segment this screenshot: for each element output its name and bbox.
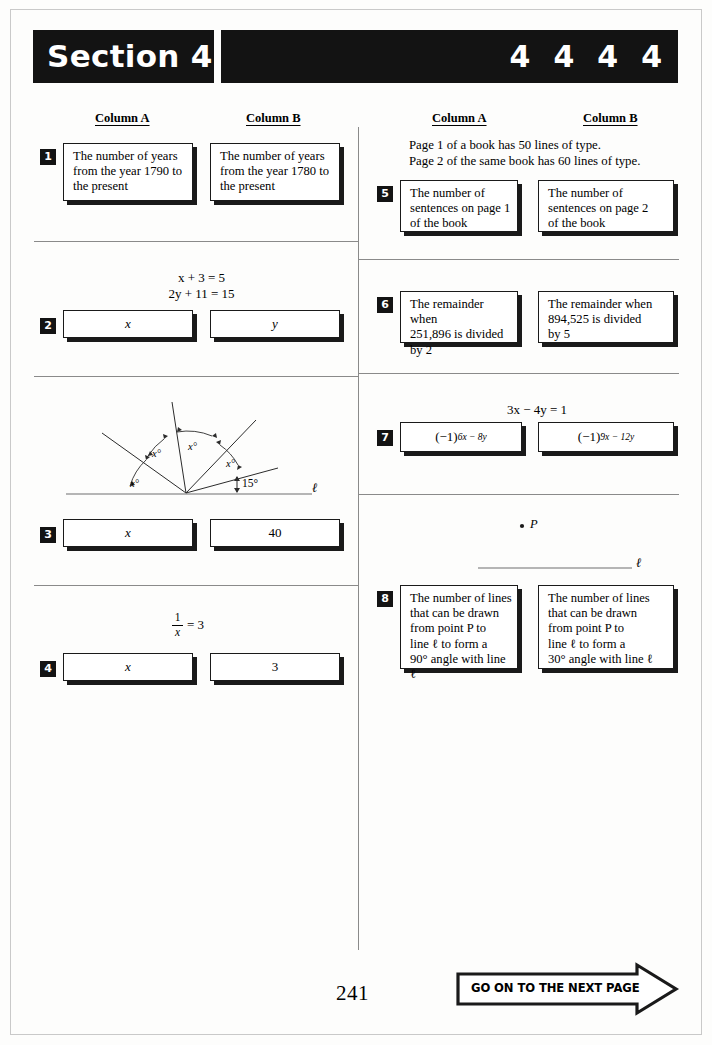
next-page-label: GO ON TO THE NEXT PAGE (471, 981, 640, 995)
arrowhead-15-bottom (234, 488, 240, 493)
q7-column-a-base: (−1) (435, 429, 458, 445)
ray-shallow-right (186, 468, 278, 493)
question-number-6: 6 (377, 297, 393, 313)
question-number-5: 5 (377, 186, 393, 202)
q2-stem: x + 3 = 5 2y + 11 = 15 (63, 270, 340, 302)
q8-line-label: ℓ (636, 555, 641, 571)
left-column-a-header: Column A (95, 111, 150, 126)
ray-upper-left (102, 433, 186, 493)
question-number-2: 2 (40, 318, 56, 334)
q1-column-a-box: The number of years from the year 1790 t… (63, 143, 193, 201)
q3-column-b-box: 40 (210, 519, 340, 547)
fraction-rest: = 3 (187, 617, 204, 633)
point-P-dot (520, 524, 524, 528)
q6-column-a-box: The remainder when 251,896 is divided by… (400, 291, 518, 343)
q7-column-b-base: (−1) (578, 429, 601, 445)
angle-diagram-svg (60, 398, 340, 506)
q4-column-a-box: x (63, 653, 193, 681)
q1-column-b-text: The number of years from the year 1780 t… (220, 149, 334, 195)
section-title: Section 4 (47, 34, 213, 79)
q3-column-a-box: x (63, 519, 193, 547)
q5-column-b-text: The number of sentences on page 2 of the… (548, 186, 668, 232)
section-number-2: 4 (553, 39, 574, 74)
section-number-1: 4 (510, 39, 531, 74)
q3-column-a-text: x (64, 520, 192, 546)
q3-angle-figure: x° x° x° x° 15° ℓ (60, 398, 340, 506)
page-number: 241 (336, 981, 369, 1006)
q2-column-a-box: x (63, 310, 193, 338)
section-banner: Section 4 (33, 30, 214, 83)
q7-column-a-expression: (−1)6x − 8y (401, 423, 521, 451)
q4-column-b-box: 3 (210, 653, 340, 681)
q8-column-b-box: The number of lines that can be drawn fr… (538, 585, 674, 669)
q7-column-a-exponent: 6x − 8y (458, 432, 487, 442)
q6-column-b-box: The remainder when 894,525 is divided by… (538, 291, 674, 343)
q8-point-label: P (530, 517, 538, 532)
section-number-3: 4 (597, 39, 618, 74)
exam-page: Section 4 4 4 4 4 Column A Column B 1 Th… (0, 0, 712, 1045)
section-number-4: 4 (641, 39, 662, 74)
q7-column-b-exponent: 9x − 12y (600, 432, 634, 442)
question-number-7: 7 (377, 430, 393, 446)
q8-point-line-figure: P ℓ (400, 508, 680, 578)
right-column-a-header: Column A (432, 111, 487, 126)
fraction-stack: 1 x (172, 612, 183, 638)
question-number-3: 3 (40, 527, 56, 543)
separator-after-q5 (359, 259, 679, 260)
question-number-1: 1 (40, 149, 56, 165)
q2-column-b-box: y (210, 310, 340, 338)
left-column-b-header: Column B (246, 111, 301, 126)
q4-stem-fraction: 1 x = 3 (172, 612, 204, 638)
fraction-numerator: 1 (175, 612, 181, 625)
section-number-bar: 4 4 4 4 (221, 30, 678, 83)
arrowhead-2b (163, 434, 168, 439)
question-number-4: 4 (40, 661, 56, 677)
q4-column-b-text: 3 (211, 654, 339, 680)
q5-stem: Page 1 of a book has 50 lines of type. P… (409, 138, 689, 169)
q3-known-angle-label: 15° (242, 477, 258, 489)
q2-column-b-text: y (211, 311, 339, 337)
arrowhead-4a (216, 440, 221, 445)
ray-steep-up (172, 402, 186, 493)
q7-stem: 3x − 4y = 1 (400, 402, 674, 418)
q5-column-a-box: The number of sentences on page 1 of the… (400, 180, 518, 232)
q6-column-b-text: The remainder when 894,525 is divided by… (548, 297, 668, 343)
q2-column-a-text: x (64, 311, 192, 337)
q4-column-a-text: x (64, 654, 192, 680)
q7-column-b-box: (−1)9x − 12y (538, 422, 674, 452)
separator-after-q2 (34, 376, 358, 377)
q5-column-b-box: The number of sentences on page 2 of the… (538, 180, 674, 232)
q1-column-a-text: The number of years from the year 1790 t… (73, 149, 187, 195)
arc-angle-3 (177, 431, 212, 436)
separator-after-q7 (359, 494, 679, 495)
q8-column-a-box: The number of lines that can be drawn fr… (400, 585, 518, 669)
arrowhead-3b (212, 433, 217, 438)
section-number-list: 4 4 4 4 (510, 30, 663, 83)
q1-column-b-box: The number of years from the year 1780 t… (210, 143, 340, 201)
arrowhead-4b (237, 465, 242, 470)
q3-angle-label-3: x° (188, 441, 197, 452)
q5-column-a-text: The number of sentences on page 1 of the… (410, 186, 512, 232)
q8-column-b-text: The number of lines that can be drawn fr… (548, 591, 668, 667)
separator-after-q3 (34, 585, 358, 586)
q7-column-b-expression: (−1)9x − 12y (539, 423, 673, 451)
right-column-b-header: Column B (583, 111, 638, 126)
go-on-next-page-arrow: GO ON TO THE NEXT PAGE (455, 963, 680, 1015)
q7-column-a-box: (−1)6x − 8y (400, 422, 522, 452)
q3-angle-label-1: x° (130, 478, 139, 489)
q3-line-label: ℓ (312, 480, 317, 496)
fraction-denominator: x (175, 626, 180, 639)
question-number-8: 8 (377, 591, 393, 607)
separator-after-q6 (359, 373, 679, 374)
q6-column-a-text: The remainder when 251,896 is divided by… (410, 297, 512, 358)
q8-column-a-text: The number of lines that can be drawn fr… (410, 591, 512, 682)
column-divider (358, 127, 359, 950)
q3-column-b-text: 40 (211, 520, 339, 546)
q3-angle-label-4: x° (226, 458, 235, 469)
q3-angle-label-2: x° (152, 448, 161, 459)
separator-after-q1 (34, 241, 358, 242)
